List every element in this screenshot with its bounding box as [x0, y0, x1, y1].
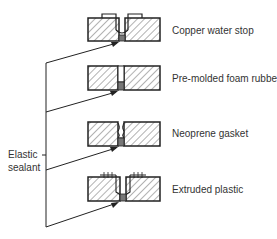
label-neoprene-gasket: Neoprene gasket	[172, 128, 248, 140]
label-copper-water-stop: Copper water stop	[172, 25, 254, 37]
label-extruded-plastic: Extruded plastic	[172, 184, 243, 196]
side-label-line1: Elastic	[8, 148, 40, 161]
side-label-line2: sealant	[8, 161, 40, 174]
elastic-sealant-label: Elastic sealant	[8, 148, 40, 174]
joint-neoprene-gasket	[88, 122, 160, 146]
joint-pre-molded-foam-rubber	[88, 66, 160, 90]
joint-extruded-plastic	[88, 172, 160, 201]
label-pre-molded-foam-rubber: Pre-molded foam rubber	[172, 73, 277, 85]
joint-copper-water-stop	[88, 14, 160, 41]
